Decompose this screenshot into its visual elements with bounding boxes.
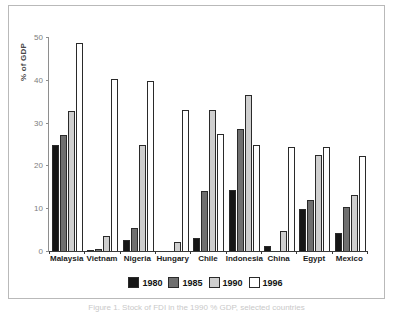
bar	[193, 238, 200, 251]
bar	[209, 110, 216, 251]
x-axis-tick-mark	[155, 251, 156, 254]
bar	[359, 156, 366, 251]
legend-item: 1985	[168, 277, 202, 288]
bar-group-bars	[335, 37, 366, 251]
figure-caption: Figure 1. Stock of FDI in the 1990 % GDP…	[8, 303, 385, 316]
x-axis-tick-mark	[226, 251, 227, 254]
plot-area	[49, 37, 367, 251]
y-axis-tick-label: 20	[25, 161, 43, 170]
bar-group-bars	[123, 37, 154, 251]
x-axis-category-label: Mexico	[332, 254, 367, 263]
y-axis-tick-label: 0	[25, 247, 43, 256]
x-axis-tick-mark	[367, 251, 368, 254]
bar	[264, 246, 271, 251]
legend-item: 1990	[209, 277, 243, 288]
legend-label: 1980	[142, 278, 162, 288]
bar	[315, 155, 322, 251]
legend-swatch	[128, 277, 139, 288]
x-axis-category-label: Vietnam	[84, 254, 119, 263]
bar	[103, 236, 110, 251]
legend-swatch	[168, 277, 179, 288]
x-axis-category-label: Indonesia	[226, 254, 261, 263]
bar	[237, 129, 244, 251]
bar	[299, 209, 306, 251]
legend-label: 1996	[263, 278, 283, 288]
bar-group	[296, 37, 331, 251]
x-axis-tick-mark	[120, 251, 121, 254]
bar-group	[49, 37, 84, 251]
bar	[60, 135, 67, 251]
bar	[217, 134, 224, 251]
bar-group-bars	[52, 37, 83, 251]
legend-item: 1980	[128, 277, 162, 288]
x-axis-tick-mark	[190, 251, 191, 254]
bar-group-bars	[193, 37, 224, 251]
bar	[174, 242, 181, 251]
legend-swatch	[209, 277, 220, 288]
chart-figure: % of GDP 01020304050 MalaysiaVietnamNige…	[0, 0, 393, 316]
bar	[182, 110, 189, 251]
x-axis-tick-mark	[296, 251, 297, 254]
legend-label: 1990	[223, 278, 243, 288]
x-axis-tick-mark	[49, 251, 50, 254]
bar	[87, 250, 94, 251]
bar	[307, 200, 314, 251]
x-axis-category-label: Egypt	[296, 254, 331, 263]
y-axis-tick-label: 50	[25, 33, 43, 42]
bar-group	[120, 37, 155, 251]
bar-group	[190, 37, 225, 251]
x-axis-category-label: Malaysia	[49, 254, 84, 263]
bar	[245, 95, 252, 251]
y-axis-tick-label: 30	[25, 119, 43, 128]
x-axis-category-label: Chile	[190, 254, 225, 263]
bar	[351, 195, 358, 251]
bar	[229, 190, 236, 251]
x-axis-tick-mark	[84, 251, 85, 254]
bar	[68, 111, 75, 251]
y-axis-tick-label: 40	[25, 76, 43, 85]
bar	[280, 231, 287, 251]
bar	[335, 233, 342, 251]
bar	[52, 145, 59, 251]
bar	[111, 79, 118, 251]
bar	[288, 147, 295, 251]
bar	[343, 207, 350, 251]
legend-item: 1996	[249, 277, 283, 288]
x-axis-category-label: Hungary	[155, 254, 190, 263]
bar	[323, 147, 330, 251]
bar	[201, 191, 208, 251]
x-axis-category-label: Nigeria	[120, 254, 155, 263]
legend-swatch	[249, 277, 260, 288]
bar	[76, 43, 83, 251]
bar	[123, 240, 130, 251]
x-axis-category-label: China	[261, 254, 296, 263]
x-axis-line	[48, 251, 368, 252]
bar-group	[84, 37, 119, 251]
bar-group-bars	[264, 37, 295, 251]
bar-group-bars	[299, 37, 330, 251]
bar	[139, 145, 146, 251]
bar	[95, 249, 102, 251]
bar-group-bars	[158, 37, 189, 251]
bar	[253, 145, 260, 251]
bar-group-bars	[87, 37, 118, 251]
x-axis-tick-mark	[332, 251, 333, 254]
bar-group	[226, 37, 261, 251]
chart-panel: % of GDP 01020304050 MalaysiaVietnamNige…	[8, 5, 385, 299]
bar-group	[155, 37, 190, 251]
chart-legend: 1980198519901996	[9, 277, 393, 288]
y-axis-tick-label: 10	[25, 204, 43, 213]
bar-group-bars	[229, 37, 260, 251]
bar	[147, 81, 154, 251]
legend-label: 1985	[182, 278, 202, 288]
x-axis-tick-mark	[261, 251, 262, 254]
bar-group	[261, 37, 296, 251]
bar-group	[332, 37, 367, 251]
bar	[131, 228, 138, 251]
